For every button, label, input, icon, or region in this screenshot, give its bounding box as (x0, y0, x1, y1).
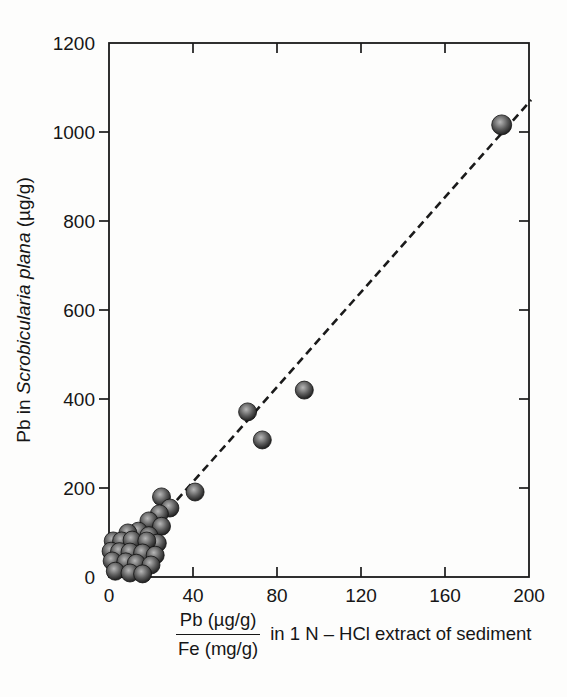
y-tick-label: 0 (84, 567, 95, 588)
fraction-numerator: Pb (µg/g) (178, 609, 258, 634)
data-point (239, 403, 257, 421)
data-point (134, 565, 152, 583)
y-tick-label: 200 (63, 478, 95, 499)
data-point (186, 483, 204, 501)
x-tick-label: 80 (266, 585, 287, 606)
y-axis-label: Pb in Scrobicularia plana (µg/g) (13, 177, 34, 442)
data-point (253, 431, 271, 449)
scatter-plot: 02004006008001000120004080120160200Pb in… (0, 0, 567, 697)
y-tick-label: 1200 (53, 33, 95, 54)
x-tick-label: 120 (345, 585, 377, 606)
y-tick-label: 800 (63, 211, 95, 232)
x-tick-label: 0 (104, 585, 115, 606)
plot-frame (109, 43, 529, 577)
data-points (102, 115, 512, 583)
x-tick-label: 40 (182, 585, 203, 606)
tick-labels: 02004006008001000120004080120160200 (53, 33, 545, 607)
y-tick-label: 1000 (53, 122, 95, 143)
figure-canvas: 02004006008001000120004080120160200Pb in… (0, 0, 567, 697)
data-point (492, 115, 512, 135)
trend-line (151, 100, 531, 529)
x-axis-label: Pb (µg/g) Fe (mg/g) in 1 N – HCl extract… (176, 609, 531, 660)
x-tick-label: 200 (513, 585, 545, 606)
x-tick-label: 160 (429, 585, 461, 606)
y-tick-label: 400 (63, 389, 95, 410)
data-point (295, 381, 313, 399)
fraction-denominator: Fe (mg/g) (176, 635, 260, 660)
x-axis-label-suffix: in 1 N – HCl extract of sediment (270, 623, 531, 647)
y-tick-label: 600 (63, 300, 95, 321)
x-axis-fraction: Pb (µg/g) Fe (mg/g) (176, 609, 260, 660)
